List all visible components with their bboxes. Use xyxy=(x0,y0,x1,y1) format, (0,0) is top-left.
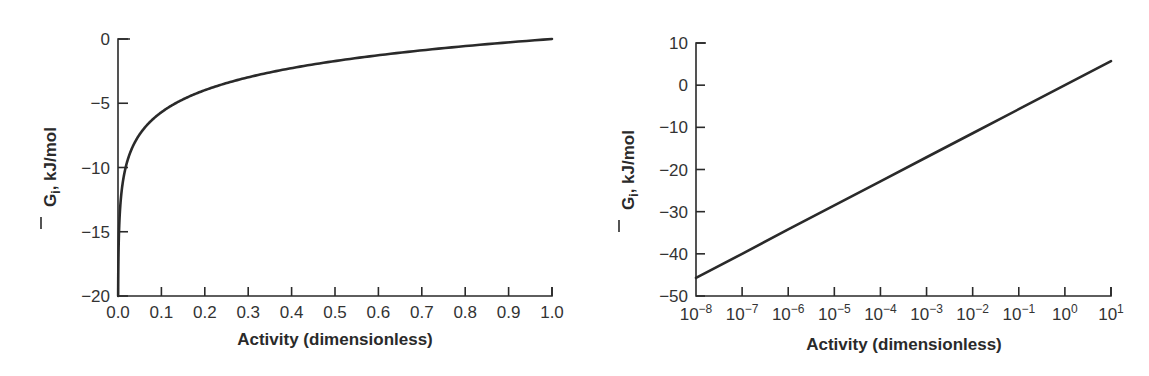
y-tick-label: −50 xyxy=(659,287,688,306)
left-chart-linear-activity: 0−5−10−15−20 0.00.10.20.30.40.50.60.70.8… xyxy=(41,30,564,349)
y-tick-label: −15 xyxy=(81,223,110,242)
x-tick-label: 10−4 xyxy=(864,302,897,324)
x-tick-label: 0.5 xyxy=(323,303,347,322)
x-tick-label: 0.7 xyxy=(410,303,434,322)
left-y-axis-title: Gi, kJ/mol xyxy=(41,127,63,229)
x-tick-label: 0.0 xyxy=(106,303,130,322)
x-tick-label: 10−2 xyxy=(956,302,989,324)
y-tick-label: 0 xyxy=(101,30,110,49)
right-y-ticks: 100−10−20−30−40−50 xyxy=(659,34,705,306)
right-chart-log-activity: 100−10−20−30−40−50 10−810−710−610−510−41… xyxy=(619,34,1124,354)
y-tick-label: −10 xyxy=(81,159,110,178)
right-x-axis-title: Activity (dimensionless) xyxy=(806,335,1002,354)
left-x-axis-title: Activity (dimensionless) xyxy=(237,330,433,349)
x-tick-label: 101 xyxy=(1098,302,1124,324)
x-tick-label: 0.6 xyxy=(367,303,391,322)
y-tick-label: −30 xyxy=(659,203,688,222)
x-tick-label: 0.8 xyxy=(453,303,477,322)
right-x-ticks: 10−810−710−610−510−410−310−210−1100101 xyxy=(680,287,1124,324)
y-tick-label: −10 xyxy=(659,118,688,137)
left-x-ticks: 0.00.10.20.30.40.50.60.70.80.91.0 xyxy=(106,287,564,322)
y-tick-label: 0 xyxy=(679,76,688,95)
svg-text:Gi, kJ/mol: Gi, kJ/mol xyxy=(619,130,641,210)
x-tick-label: 10−3 xyxy=(910,302,943,324)
x-tick-label: 10−7 xyxy=(726,302,759,324)
left-axis-frame xyxy=(118,39,552,296)
x-tick-label: 0.9 xyxy=(497,303,521,322)
x-tick-label: 0.2 xyxy=(193,303,217,322)
x-tick-label: 100 xyxy=(1052,302,1078,324)
right-y-rest: , kJ/mol xyxy=(619,130,638,193)
right-y-axis-title: Gi, kJ/mol xyxy=(619,130,641,232)
y-tick-label: −5 xyxy=(91,94,110,113)
figure: 0−5−10−15−20 0.00.10.20.30.40.50.60.70.8… xyxy=(0,0,1149,376)
y-tick-label: −20 xyxy=(659,161,688,180)
left-y-rest: , kJ/mol xyxy=(41,127,60,190)
y-tick-label: 10 xyxy=(669,34,688,53)
left-axes xyxy=(118,39,552,296)
left-y-ticks: 0−5−10−15−20 xyxy=(81,30,128,306)
svg-text:Gi, kJ/mol: Gi, kJ/mol xyxy=(41,127,63,207)
x-tick-label: 10−6 xyxy=(772,302,805,324)
x-tick-label: 0.1 xyxy=(150,303,174,322)
left-curve xyxy=(118,39,552,296)
x-tick-label: 10−5 xyxy=(818,302,851,324)
x-tick-label: 10−8 xyxy=(680,302,713,324)
x-tick-label: 10−1 xyxy=(1002,302,1035,324)
right-y-symbol: G xyxy=(619,197,638,210)
y-tick-label: −40 xyxy=(659,245,688,264)
x-tick-label: 0.3 xyxy=(236,303,260,322)
right-line xyxy=(696,61,1111,278)
left-y-symbol: G xyxy=(41,194,60,207)
x-tick-label: 0.4 xyxy=(280,303,304,322)
x-tick-label: 1.0 xyxy=(540,303,564,322)
